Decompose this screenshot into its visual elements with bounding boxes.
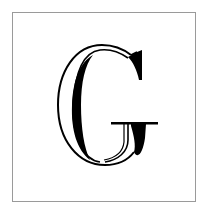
letter-g-glyph [0,0,209,217]
